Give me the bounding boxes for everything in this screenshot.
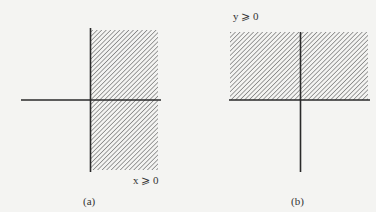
panel-a — [21, 28, 161, 172]
caption-b: (b) — [291, 195, 304, 207]
inequality-label-a: x ⩾ 0 — [133, 174, 159, 186]
figure: x ⩾ 0 (a) y ⩾ 0 (b) — [0, 0, 376, 212]
shaded-region-upper-half-plane — [230, 32, 368, 100]
diagram-canvas — [0, 0, 376, 212]
panel-b — [229, 32, 370, 172]
inequality-label-b: y ⩾ 0 — [233, 10, 259, 22]
caption-a: (a) — [83, 195, 95, 207]
